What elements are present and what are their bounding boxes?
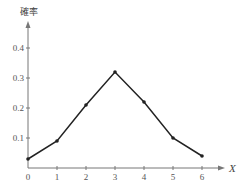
x-tick-label: 0 xyxy=(26,172,31,182)
y-axis-title: 確率 xyxy=(20,6,38,17)
series-line xyxy=(28,72,202,159)
y-tick-label: 0.2 xyxy=(13,103,24,113)
axes xyxy=(26,21,226,171)
x-tick-label: 1 xyxy=(55,172,60,182)
x-axis-title: X xyxy=(228,162,237,174)
data-markers xyxy=(26,70,204,161)
data-point xyxy=(200,154,204,158)
data-point xyxy=(26,157,30,161)
x-tick-label: 6 xyxy=(200,172,205,182)
data-point xyxy=(171,136,175,140)
x-axis-arrow-icon xyxy=(218,166,225,171)
data-point xyxy=(113,70,117,74)
y-tick-label: 0.3 xyxy=(13,73,25,83)
x-tick-label: 3 xyxy=(113,172,118,182)
x-tick-label: 2 xyxy=(84,172,89,182)
probability-line-chart: 確率 X 0.10.20.30.4 0123456 xyxy=(0,0,248,193)
x-tick-label: 5 xyxy=(171,172,176,182)
y-ticks: 0.10.20.30.4 xyxy=(13,43,30,143)
data-point xyxy=(84,103,88,107)
y-tick-label: 0.1 xyxy=(13,133,24,143)
data-point xyxy=(55,139,59,143)
x-tick-label: 4 xyxy=(142,172,147,182)
y-axis-arrow-icon xyxy=(26,21,31,28)
data-point xyxy=(142,100,146,104)
y-tick-label: 0.4 xyxy=(13,43,25,53)
